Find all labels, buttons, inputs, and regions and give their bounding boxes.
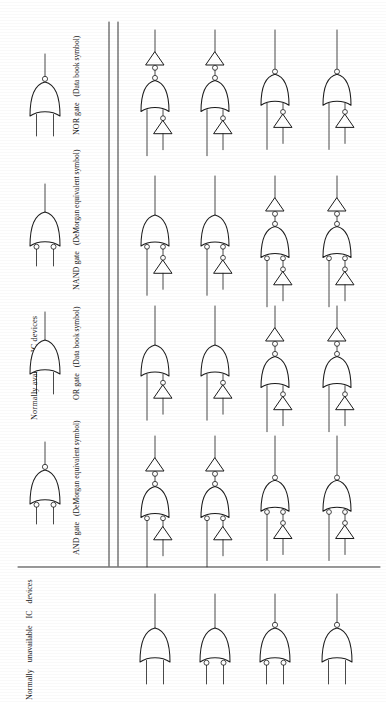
output-inverter xyxy=(266,198,284,211)
unavailable-gate-1 xyxy=(200,594,230,684)
input-bubble-1 xyxy=(281,256,286,261)
output-inverter xyxy=(146,458,164,471)
gate-output-bubble xyxy=(273,351,278,356)
circuit-3-0 xyxy=(141,30,172,156)
circuit-1-3 xyxy=(323,306,354,432)
or-gate-body xyxy=(201,81,229,112)
or-gate-body xyxy=(323,74,351,105)
input-inverter-bubble xyxy=(221,116,226,121)
output-inverter-bubble xyxy=(213,65,218,70)
input-bubble-1 xyxy=(343,510,348,515)
circuit-2-0 xyxy=(141,176,172,295)
circuit-3-3 xyxy=(323,30,354,149)
input-bubble-0 xyxy=(265,510,270,515)
output-inverter xyxy=(146,52,164,65)
gate-output-bubble xyxy=(335,475,340,480)
reference-gate-or-gate xyxy=(30,312,60,394)
input-inverter-bubble xyxy=(343,392,348,397)
circuit-0-3 xyxy=(323,436,354,560)
input-inverter xyxy=(274,114,292,127)
gate-output-bubble xyxy=(273,475,278,480)
input-inverter xyxy=(154,121,172,134)
input-inverter-bubble xyxy=(161,380,166,385)
reference-gate-and-gate xyxy=(30,442,60,524)
output-inverter-bubble xyxy=(153,65,158,70)
or-gate-body xyxy=(200,628,230,662)
or-gate-body xyxy=(141,345,169,376)
input-inverter xyxy=(214,385,232,398)
or-gate-body xyxy=(201,487,229,518)
input-bubble-1 xyxy=(161,516,166,521)
or-gate-body xyxy=(260,628,290,662)
input-inverter-bubble xyxy=(343,267,348,272)
circuit-2-3 xyxy=(323,176,354,307)
input-bubble-0 xyxy=(204,660,209,665)
gate-output-bubble xyxy=(213,481,218,486)
or-gate-body xyxy=(261,74,289,105)
input-inverter-bubble xyxy=(281,267,286,272)
or-gate-body xyxy=(261,357,289,388)
input-inverter xyxy=(154,385,172,398)
gate-output-bubble xyxy=(273,69,278,74)
input-bubble-0 xyxy=(145,516,150,521)
output-inverter-bubble xyxy=(213,471,218,476)
output-inverter-bubble xyxy=(335,341,340,346)
gate-output-bubble xyxy=(335,221,340,226)
output-inverter-bubble xyxy=(153,471,158,476)
or-gate-body xyxy=(201,215,229,246)
circuit-0-1 xyxy=(201,436,232,567)
input-bubble-1 xyxy=(343,256,348,261)
gate-output-bubble xyxy=(335,69,340,74)
input-bubble-0 xyxy=(34,244,39,249)
input-bubble-1 xyxy=(221,660,226,665)
input-inverter-bubble xyxy=(281,392,286,397)
unavailable-gate-0 xyxy=(140,594,170,684)
input-bubble-1 xyxy=(51,244,56,249)
input-inverter-bubble xyxy=(161,255,166,260)
reference-gate-nor-gate xyxy=(30,54,60,136)
or-gate-body xyxy=(141,81,169,112)
output-bubble xyxy=(42,464,47,469)
circuit-0-2 xyxy=(261,436,292,560)
gate-output-bubble xyxy=(335,351,340,356)
input-inverter xyxy=(154,527,172,540)
input-inverter xyxy=(336,525,354,538)
input-inverter xyxy=(336,272,354,285)
input-inverter xyxy=(336,397,354,410)
input-bubble-0 xyxy=(264,660,269,665)
gate-output-bubble xyxy=(153,481,158,486)
circuit-2-1 xyxy=(201,176,232,295)
input-inverter xyxy=(336,114,354,127)
input-inverter-bubble xyxy=(161,116,166,121)
or-gate-body xyxy=(30,212,60,246)
gate-output-bubble xyxy=(213,75,218,80)
input-bubble-0 xyxy=(145,244,150,249)
input-bubble-0 xyxy=(265,256,270,261)
or-gate-body xyxy=(141,487,169,518)
circuit-1-2 xyxy=(261,306,292,432)
or-gate-body xyxy=(201,345,229,376)
input-inverter-bubble xyxy=(281,109,286,114)
output-bubble xyxy=(42,76,47,81)
input-inverter-bubble xyxy=(221,380,226,385)
unavailable-gate-3 xyxy=(322,594,352,684)
unavailable-gate-2 xyxy=(260,594,290,684)
input-inverter xyxy=(274,397,292,410)
input-inverter-bubble xyxy=(221,255,226,260)
input-inverter xyxy=(214,121,232,134)
input-inverter-bubble xyxy=(343,109,348,114)
figure-canvas: Normally available IC devices Normally u… xyxy=(0,0,386,702)
input-bubble-1 xyxy=(161,244,166,249)
input-bubble-0 xyxy=(327,510,332,515)
or-gate-body xyxy=(141,215,169,246)
circuit-2-2 xyxy=(261,176,292,307)
output-inverter xyxy=(328,198,346,211)
circuit-1-0 xyxy=(141,306,172,420)
or-gate-body xyxy=(323,227,351,258)
input-inverter xyxy=(274,272,292,285)
or-gate-body xyxy=(323,480,351,511)
or-gate-body xyxy=(30,470,60,504)
output-inverter-bubble xyxy=(273,341,278,346)
input-bubble-0 xyxy=(205,516,210,521)
output-inverter xyxy=(266,328,284,341)
